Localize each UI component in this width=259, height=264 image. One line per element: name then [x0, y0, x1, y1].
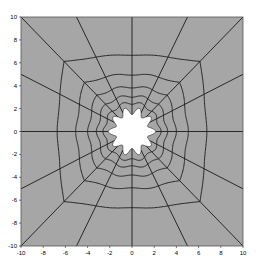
- mesh-plot: -10-8-6-4-20246810 1086420-2-4-6-8-10: [0, 0, 259, 264]
- x-tick-label: -10: [17, 250, 26, 256]
- x-axis-ticks: -10-8-6-4-20246810: [17, 246, 247, 256]
- y-tick-label: 0: [14, 129, 18, 135]
- y-tick-label: -2: [12, 151, 18, 157]
- mesh-area: [21, 17, 243, 246]
- x-tick-label: -4: [85, 250, 91, 256]
- y-tick-label: 6: [14, 60, 18, 66]
- y-tick-label: 2: [14, 106, 18, 112]
- y-tick-label: -8: [12, 220, 18, 226]
- x-tick-label: 8: [219, 250, 223, 256]
- x-tick-label: -8: [41, 250, 47, 256]
- y-tick-label: 8: [14, 37, 18, 43]
- x-tick-label: 6: [197, 250, 201, 256]
- x-tick-label: -2: [107, 250, 113, 256]
- y-axis-ticks: 1086420-2-4-6-8-10: [8, 14, 21, 249]
- y-tick-label: -10: [8, 243, 17, 249]
- y-tick-label: 10: [10, 14, 17, 20]
- x-tick-label: 4: [175, 250, 179, 256]
- y-tick-label: -6: [12, 197, 18, 203]
- y-tick-label: 4: [14, 83, 18, 89]
- x-tick-label: 2: [153, 250, 157, 256]
- y-tick-label: -4: [12, 174, 18, 180]
- x-tick-label: 10: [240, 250, 247, 256]
- x-tick-label: 0: [130, 250, 134, 256]
- x-tick-label: -6: [63, 250, 69, 256]
